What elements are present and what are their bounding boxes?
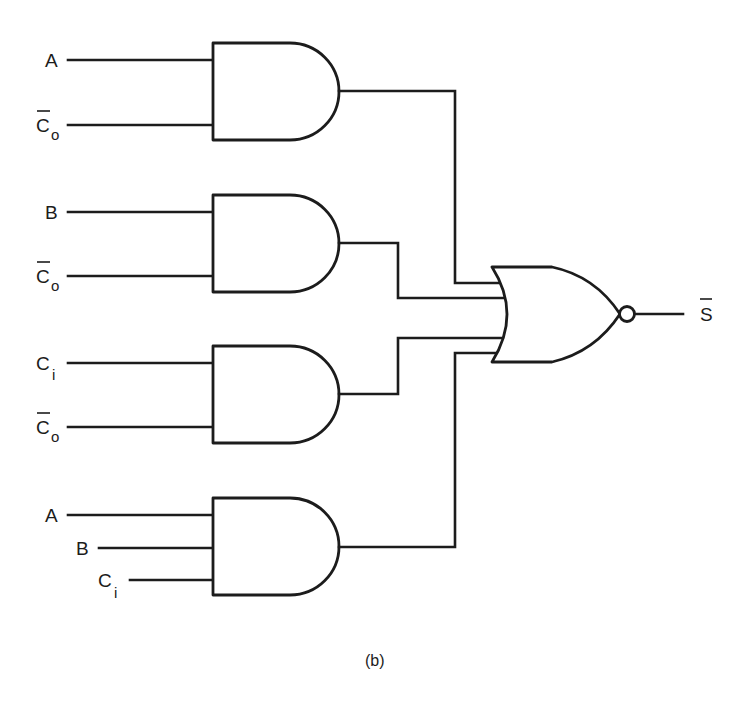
svg-text:S: S: [700, 304, 713, 325]
svg-text:C: C: [36, 353, 50, 374]
and-gate-4: A B C i: [45, 498, 339, 601]
wire-and1-to-nor: [339, 91, 505, 283]
logic-circuit-diagram: A C o B C o C i C o: [0, 0, 749, 711]
nor-gate: S: [492, 267, 713, 362]
nor-gate-body-icon: [492, 267, 620, 362]
label-b: B: [76, 538, 89, 559]
wire-and3-to-nor: [339, 338, 510, 394]
and-gate-body-icon: [213, 43, 339, 140]
label-s-bar: S: [700, 299, 713, 325]
svg-text:C: C: [36, 266, 50, 287]
inversion-bubble-icon: [620, 307, 635, 322]
figure-caption: (b): [365, 652, 385, 669]
svg-text:C: C: [36, 115, 50, 136]
and-gate-3: C i C o: [36, 346, 339, 445]
svg-text:C: C: [98, 570, 112, 591]
svg-text:o: o: [51, 277, 59, 294]
label-b: B: [45, 202, 58, 223]
label-ci: C i: [98, 570, 117, 601]
label-co-bar: C o: [36, 262, 59, 294]
label-co-bar: C o: [36, 111, 59, 143]
svg-text:o: o: [51, 428, 59, 445]
and-gate-body-icon: [213, 498, 339, 595]
svg-text:i: i: [52, 366, 55, 383]
svg-text:i: i: [114, 584, 117, 601]
and-gate-body-icon: [213, 346, 339, 443]
and-gate-1: A C o: [36, 43, 339, 143]
svg-text:C: C: [36, 417, 50, 438]
label-a: A: [45, 505, 58, 526]
svg-text:o: o: [51, 126, 59, 143]
label-a: A: [45, 50, 58, 71]
wire-and4-to-nor: [339, 353, 505, 547]
label-co-bar: C o: [36, 413, 59, 445]
and-gate-2: B C o: [36, 195, 339, 294]
and-gate-body-icon: [213, 195, 339, 292]
wire-and2-to-nor: [339, 243, 510, 298]
label-ci: C i: [36, 353, 55, 383]
